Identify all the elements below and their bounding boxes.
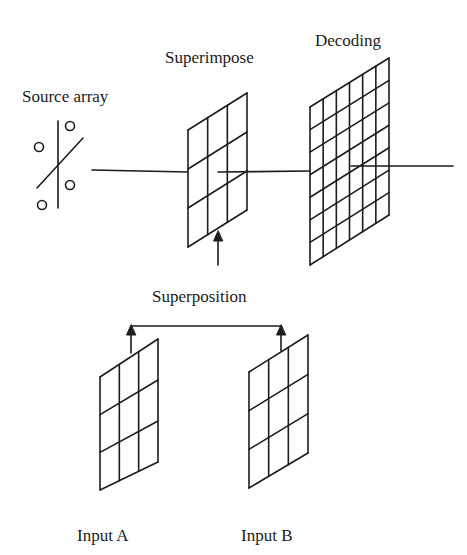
- superposition-bracket: [127, 325, 286, 353]
- input-a-label: Input A: [77, 527, 128, 544]
- superimpose-label: Superimpose: [165, 49, 254, 66]
- superposition-label: Superposition: [152, 288, 246, 305]
- beam-source-to-superimpose: [92, 170, 188, 172]
- source-element: [35, 143, 44, 152]
- grid-line: [188, 171, 247, 208]
- diagram-canvas: Source array Superimpose Decoding Superp…: [0, 0, 467, 555]
- beam-superimpose-to-decoding: [218, 171, 310, 172]
- grid-line: [249, 335, 308, 372]
- decoding-grid: [310, 58, 389, 265]
- source-element: [38, 201, 47, 210]
- source-array: [35, 121, 84, 210]
- grid-line: [249, 453, 308, 488]
- source-array-label: Source array: [22, 88, 108, 105]
- grid-line: [100, 380, 158, 415]
- superimpose-grid: [188, 93, 247, 247]
- grid-line: [100, 421, 158, 452]
- source-element: [66, 181, 75, 190]
- grid-line: [249, 414, 308, 450]
- superposition-up-arrow: [214, 231, 223, 265]
- grid-line: [188, 93, 247, 130]
- source-element: [66, 122, 75, 131]
- grid-line: [249, 374, 308, 410]
- grid-line: [100, 462, 158, 490]
- diagram-svg: [0, 0, 467, 555]
- input-a-grid: [100, 339, 158, 490]
- grid-line: [100, 339, 158, 377]
- grid-line: [188, 132, 247, 169]
- input-b-grid: [249, 335, 308, 488]
- input-b-label: Input B: [241, 527, 292, 544]
- decoding-label: Decoding: [315, 32, 381, 49]
